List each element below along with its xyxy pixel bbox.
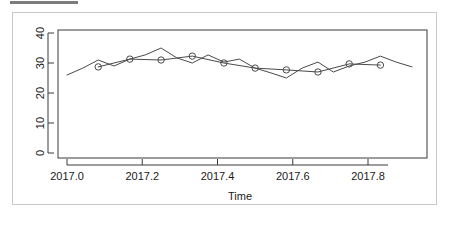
x-tick-label: 2017.6 bbox=[276, 170, 310, 182]
y-tick-label: 30 bbox=[34, 57, 46, 69]
y-axis-tick-labels: 010203040 bbox=[34, 27, 46, 156]
series-fitted bbox=[98, 56, 380, 72]
x-tick-label: 2017.0 bbox=[50, 170, 84, 182]
axis-lines bbox=[48, 33, 388, 165]
y-tick-label: 20 bbox=[34, 87, 46, 99]
x-axis-title: Time bbox=[228, 190, 252, 202]
axis-ticks bbox=[48, 33, 368, 165]
x-tick-label: 2017.4 bbox=[201, 170, 235, 182]
plot-svg: 010203040 2017.02017.22017.42017.62017.8… bbox=[0, 0, 452, 229]
plot-frame bbox=[58, 30, 427, 158]
data-series bbox=[67, 48, 412, 78]
screenshot-root: 010203040 2017.02017.22017.42017.62017.8… bbox=[0, 0, 452, 229]
y-tick-label: 10 bbox=[34, 117, 46, 129]
x-tick-label: 2017.8 bbox=[351, 170, 385, 182]
x-tick-label: 2017.2 bbox=[125, 170, 159, 182]
y-tick-label: 0 bbox=[34, 150, 46, 156]
y-tick-label: 40 bbox=[34, 27, 46, 39]
timeseries-plot: 010203040 2017.02017.22017.42017.62017.8… bbox=[0, 0, 452, 229]
x-axis-tick-labels: 2017.02017.22017.42017.62017.8 bbox=[50, 170, 385, 182]
series-observed bbox=[67, 48, 412, 78]
